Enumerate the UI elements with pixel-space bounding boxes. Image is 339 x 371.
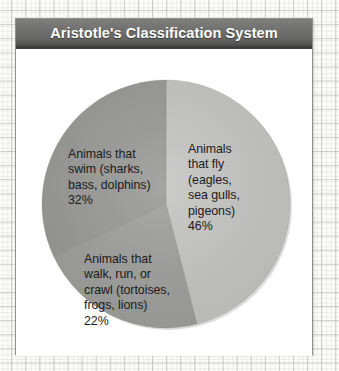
pie-label-swim: Animals that swim (sharks, bass, dolphin… [68,147,176,209]
pie-label-walk-run-crawl: Animals that walk, run, or crawl (tortoi… [84,252,206,329]
pie-chart-plot-area: Animals that swim (sharks, bass, dolphin… [16,52,312,356]
chart-title-bar: Aristotle's Classification System [16,19,312,49]
pie-label-fly: Animals that fly (eagles, sea gulls, pig… [188,142,266,234]
chart-card: Aristotle's Classification System Animal… [15,18,313,355]
page-title: Aristotle's Classification System [50,25,278,41]
